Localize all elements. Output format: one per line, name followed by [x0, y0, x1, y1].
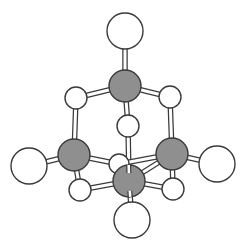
molecule-canvas: [0, 0, 245, 242]
gray-atom-C2: [58, 139, 90, 171]
small-white-atom-S3: [117, 115, 139, 137]
gray-atom-C3: [156, 138, 188, 170]
large-white-atom-A2: [11, 148, 47, 184]
small-white-atom-S1: [65, 87, 87, 109]
atom-layer: [11, 13, 235, 238]
large-white-atom-A1: [107, 13, 143, 49]
gray-atom-C1: [109, 70, 141, 102]
large-white-atom-A4: [114, 202, 150, 238]
small-white-atom-S2: [159, 86, 181, 108]
molecule-diagram: [0, 0, 245, 242]
small-white-atom-S5: [69, 179, 91, 201]
small-white-atom-S6: [162, 178, 184, 200]
large-white-atom-A3: [199, 146, 235, 182]
